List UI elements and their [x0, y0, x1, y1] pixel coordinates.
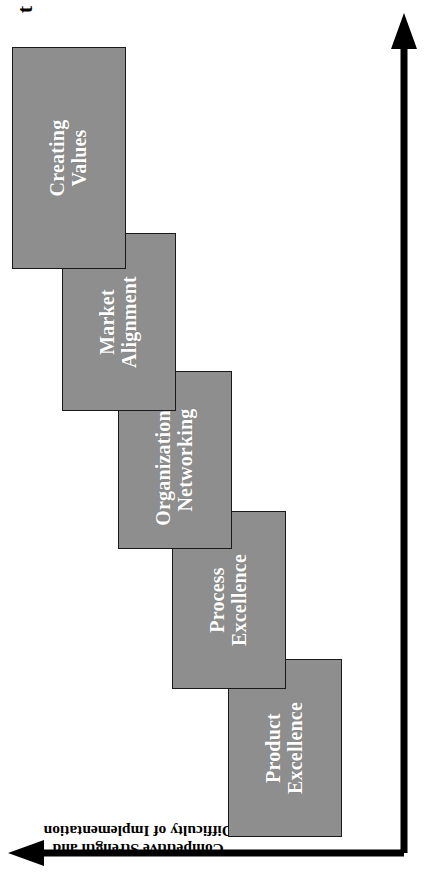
- stage-label: Organizational Networking: [153, 390, 196, 530]
- y-axis-label: Competitive Strength and Difficulty of I…: [13, 822, 263, 859]
- stage-label: Market Alignment: [97, 272, 140, 372]
- x-axis: [391, 13, 417, 853]
- stage-label: Creating Values: [47, 116, 90, 201]
- stage-box-creating-values[interactable]: Creating Values: [12, 47, 126, 269]
- stage-label: Process Excellence: [207, 550, 250, 650]
- x-axis-label: t: [12, 6, 38, 13]
- figure-root: Competitive Strength and Difficulty of I…: [0, 0, 442, 879]
- stage-label: Product Excellence: [263, 698, 306, 798]
